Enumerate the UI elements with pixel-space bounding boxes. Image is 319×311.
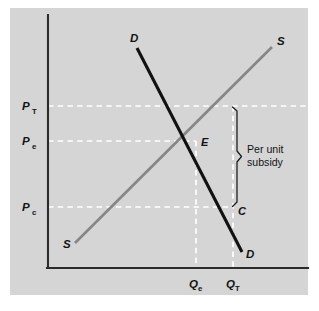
quantity-label-qt-sub: T — [235, 284, 240, 293]
price-label-pe-base: P — [22, 135, 30, 147]
price-label-pc-sub: c — [32, 208, 37, 217]
point-label-c: C — [238, 205, 247, 217]
price-label-pt-sub: T — [32, 107, 37, 116]
price-label-pc-base: P — [22, 201, 30, 213]
quantity-label-qt-base: Q — [226, 278, 235, 290]
quantity-label-qe-sub: e — [198, 284, 203, 293]
chart-canvas: P T P e P c Q e Q T D D S S E C Per u — [0, 0, 319, 311]
economics-subsidy-diagram: P T P e P c Q e Q T D D S S E C Per u — [0, 0, 319, 311]
supply-curve-label-bottom: S — [63, 238, 71, 250]
price-label-pe-sub: e — [32, 142, 37, 151]
demand-curve-label-bottom: D — [246, 248, 254, 260]
per-unit-subsidy-annotation: Per unit subsidy — [247, 143, 284, 168]
demand-curve-label-top: D — [130, 32, 138, 44]
price-label-pt-base: P — [22, 100, 30, 112]
point-label-e: E — [201, 136, 209, 148]
subsidy-annotation-line1: Per unit — [247, 143, 284, 155]
supply-curve-label-top: S — [277, 35, 285, 47]
quantity-label-qe-base: Q — [189, 278, 198, 290]
subsidy-annotation-line2: subsidy — [247, 156, 284, 168]
